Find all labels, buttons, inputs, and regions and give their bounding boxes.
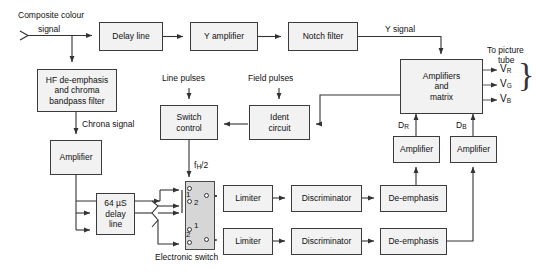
picture-tube-outputs [483,70,497,100]
switch-control-line1: Switch [176,112,201,123]
block-delay-line-label: Delay line [112,31,149,42]
switch-position-2b: 2 [186,230,190,240]
block-switch-control[interactable]: Switch control [160,105,218,140]
block-amplifier-db[interactable]: Amplifier [450,136,497,163]
dr-subscript: R [404,123,409,130]
amplifier-dr-label: Amplifier [400,144,433,155]
limiter-bottom-label: Limiter [235,236,261,247]
switch-position-2a: 2 [194,198,198,208]
composite-input-label-line2: signal [38,24,60,34]
vr-output-label: VR [500,64,511,76]
electronic-switch-caption: Electronic switch [155,252,218,262]
block-amplifier-dr[interactable]: Amplifier [393,136,440,163]
y-signal-label: Y signal [385,24,415,34]
switch-position-1b: 1 [194,221,198,231]
amplifiers-matrix-line3: matrix [430,92,453,103]
dr-signal-label: DR [398,120,409,132]
hf-deemphasis-line2: and chroma [55,85,100,96]
field-pulses-label: Field pulses [248,73,293,83]
switch-terminal-out-top[interactable] [204,193,209,198]
block-amplifiers-and-matrix[interactable]: Amplifiers and matrix [400,59,483,114]
block-64us-delay-line[interactable]: 64 µS delay line [96,193,135,235]
switch-terminal-in-4[interactable] [187,240,192,245]
picture-tube-brace-icon: } [518,58,534,92]
input-chevron [20,31,28,40]
vg-prefix: V [500,78,507,89]
delay-64us-line2: delay [105,209,125,220]
ident-circuit-line1: Ident [270,112,289,123]
fh-half-label: fH/2 [194,160,208,172]
block-discriminator-top[interactable]: Discriminator [291,185,362,212]
amplifier-db-label: Amplifier [457,144,490,155]
db-subscript: B [462,123,466,130]
switch-terminal-out-bottom[interactable] [204,237,209,242]
block-y-amplifier-label: Y amplifier [204,31,244,42]
block-deemphasis-bottom[interactable]: De-emphasis [380,228,447,255]
block-ident-circuit[interactable]: Ident circuit [249,105,310,140]
switch-position-1a: 1 [186,190,190,200]
block-deemphasis-top[interactable]: De-emphasis [380,185,447,212]
hf-deemphasis-line1: HF de-emphasis [46,75,108,86]
block-notch-filter-label: Notch filter [303,31,344,42]
ident-circuit-line2: circuit [268,123,290,134]
block-notch-filter[interactable]: Notch filter [288,22,358,51]
block-limiter-top[interactable]: Limiter [223,185,273,212]
deemphasis-top-label: De-emphasis [388,193,438,204]
vg-output-label: VG [500,79,512,91]
block-limiter-bottom[interactable]: Limiter [223,228,273,255]
vr-subscript: R [507,67,512,74]
amplifiers-matrix-line1: Amplifiers [423,71,460,82]
chroma-signal-label: Chrona signal [82,119,134,129]
delay-64us-line1: 64 µS [104,198,126,209]
composite-input-label-line1: Composite colour [18,10,84,20]
chroma-amplifier-label: Amplifier [59,152,92,163]
discriminator-bottom-label: Discriminator [302,236,352,247]
vg-subscript: G [507,82,512,89]
switch-control-line2: control [176,123,202,134]
db-signal-label: DB [456,120,466,132]
vr-prefix: V [500,63,507,74]
hf-deemphasis-line3: bandpass filter [49,96,104,107]
block-hf-deemphasis-chroma-bandpass[interactable]: HF de-emphasis and chroma bandpass filte… [37,69,117,112]
line-pulses-label: Line pulses [162,73,205,83]
discriminator-top-label: Discriminator [302,193,352,204]
vb-output-label: VB [500,94,511,106]
delay-64us-line3: line [109,219,122,230]
to-picture-tube-label-line1: To picture [487,45,524,55]
block-delay-line[interactable]: Delay line [99,22,163,51]
block-chroma-amplifier[interactable]: Amplifier [50,140,102,175]
limiter-top-label: Limiter [235,193,261,204]
vb-prefix: V [500,93,507,104]
amplifiers-matrix-line2: and [434,81,448,92]
block-discriminator-bottom[interactable]: Discriminator [291,228,362,255]
block-y-amplifier[interactable]: Y amplifier [190,22,258,51]
fh-half-suffix: /2 [201,160,208,170]
vb-subscript: B [507,97,511,104]
deemphasis-bottom-label: De-emphasis [388,236,438,247]
